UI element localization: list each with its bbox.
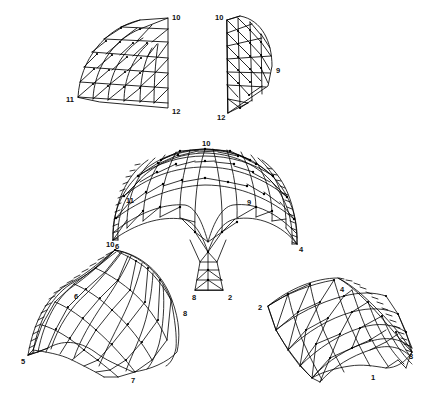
node-label-3-shell-bottom-right: 3 xyxy=(409,352,413,361)
node-label-1-shell-bottom-right: 1 xyxy=(371,373,375,382)
panel-top-left-nodes xyxy=(92,27,148,89)
panel-top-left-mesh xyxy=(78,18,168,108)
node-label-6-shell-bottom-left: 6 xyxy=(74,292,78,301)
panel-top-right: 10 9 12 xyxy=(215,13,280,122)
node-label-5-shell-bottom-left: 5 xyxy=(21,357,25,366)
node-label-10-shell-center: 10 xyxy=(202,139,210,148)
node-label-9-panel-right: 9 xyxy=(276,66,280,75)
node-label-12-panel-right: 12 xyxy=(217,113,225,122)
node-label-4-shell-bottom-right: 4 xyxy=(340,285,345,294)
shell-bottom-right: 4 2 3 1 xyxy=(258,278,413,382)
node-label-4-shell-center: 4 xyxy=(299,245,304,254)
node-label-8-shell-bottom-left: 8 xyxy=(183,309,187,318)
node-label-10-shell-bottom-left: 10 xyxy=(106,240,114,249)
shell-bottom-left: 10 6 8 5 7 xyxy=(21,240,187,385)
node-label-10-panel-right: 10 xyxy=(215,13,223,22)
node-label-2-shell-center: 2 xyxy=(228,293,232,302)
node-label-7-shell-bottom-left: 7 xyxy=(131,376,135,385)
node-label-9-shell-center: 9 xyxy=(247,198,251,207)
shell-center: 10 11 9 6 4 8 2 xyxy=(113,139,304,302)
node-label-2-shell-bottom-right: 2 xyxy=(258,303,262,312)
node-label-11-panel-left: 11 xyxy=(66,95,74,104)
node-label-11-shell-center: 11 xyxy=(126,196,134,205)
shell-bottom-left-mesh xyxy=(28,250,179,377)
node-label-12-panel-left: 12 xyxy=(172,107,180,116)
node-label-8-shell-center: 8 xyxy=(192,293,196,302)
panel-top-left: 10 11 12 xyxy=(66,13,180,116)
mesh-diagram-figure: 10 11 12 xyxy=(0,0,442,399)
node-label-10-panel-left: 10 xyxy=(172,13,180,22)
